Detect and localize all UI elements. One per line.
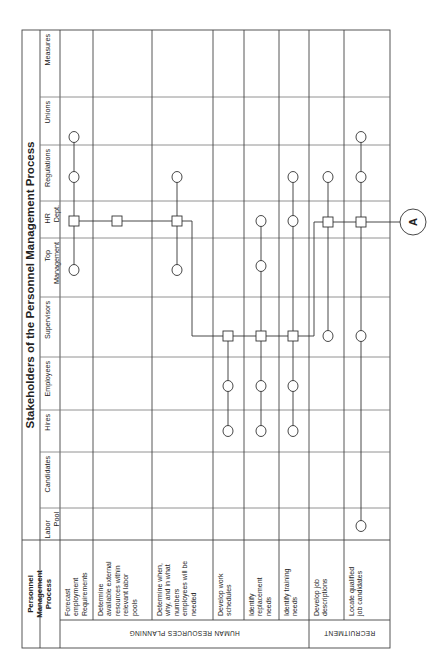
process-label-determine-when: Determine when,why, and in whatnumbersem… [156, 561, 197, 617]
stakeholder-nodes [69, 132, 366, 532]
stakeholder-involved-circle-icon [223, 381, 233, 392]
stakeholder-label-candidates: Candidates [43, 456, 52, 493]
process-header-label: Management [35, 570, 44, 618]
stakeholder-responsible-square-icon [323, 217, 333, 227]
stakeholder-involved-circle-icon [356, 331, 366, 342]
process-label: Develop work [217, 573, 225, 616]
stakeholder-responsible-square-icon [172, 216, 182, 226]
stakeholder-involved-circle-icon [356, 521, 366, 532]
stakeholder-label-hr-dept: HRDept. [43, 205, 61, 223]
grid-lines [22, 30, 390, 648]
process-label: Identify training [283, 568, 291, 616]
stakeholder-label: Employees [43, 361, 52, 397]
off-page-connector-label: A [407, 218, 419, 226]
stakeholder-involved-circle-icon [288, 381, 298, 392]
stakeholder-label: Unions [43, 101, 52, 124]
category-label-hr-planning: HUMAN RESOURCES PLANNING [129, 630, 240, 637]
stakeholder-involved-circle-icon [288, 426, 298, 437]
process-label: Locate qualified [348, 567, 356, 616]
stakeholder-involved-circle-icon [356, 132, 366, 143]
stakeholder-label-hires: Hires [43, 414, 52, 431]
process-label: relevant labor [122, 573, 129, 616]
process-label-replacement-needs: Identifyreplacementneeds [248, 577, 272, 616]
stakeholder-label: Hires [43, 414, 52, 431]
process-label: why, and in what [164, 564, 172, 617]
process-label: needs [291, 596, 298, 616]
stakeholder-label: Candidates [43, 456, 52, 493]
process-header-label: Process [44, 578, 53, 609]
stakeholder-responsible-square-icon [112, 216, 122, 226]
process-label: Identify [248, 593, 256, 616]
process-label-training-needs: Identify trainingneeds [283, 568, 298, 616]
stakeholder-responsible-square-icon [69, 216, 79, 226]
stakeholder-involved-circle-icon [356, 172, 366, 183]
stakeholder-involved-circle-icon [288, 216, 298, 227]
stakeholder-involved-circle-icon [256, 426, 266, 437]
process-label: employees will be [181, 561, 189, 616]
process-column-header: PersonnelManagementProcess [26, 570, 53, 618]
stakeholder-label-employees: Employees [43, 361, 52, 397]
diagram-page: Stakeholders of the Personnel Management… [0, 0, 430, 671]
process-label: Determine [97, 584, 104, 616]
stakeholder-label: Pool [52, 512, 61, 527]
stakeholder-responsible-square-icon [256, 331, 266, 341]
stakeholder-label-unions: Unions [43, 101, 52, 124]
stakeholder-responsible-square-icon [356, 217, 366, 227]
stakeholder-involved-circle-icon [256, 381, 266, 392]
process-header-label: Personnel [26, 575, 35, 613]
process-label-determine-external: Determineavailable externalresources wit… [97, 561, 139, 616]
stakeholder-involved-circle-icon [256, 261, 266, 272]
process-label-work-schedules: Develop workschedules [217, 573, 232, 616]
process-label: needed [190, 593, 197, 616]
category-labels: HUMAN RESOURCES PLANNINGRECRUITMENT [129, 630, 375, 637]
process-label: schedules [225, 584, 232, 616]
stakeholder-label: Supervisors [43, 301, 52, 339]
process-label: numbers [173, 588, 180, 616]
stakeholder-involved-circle-icon [69, 132, 79, 143]
stakeholder-involved-circle-icon [288, 172, 298, 183]
stakeholder-label: Dept. [52, 205, 61, 222]
outer-border [22, 30, 390, 648]
stakeholder-label: Measures [43, 34, 52, 66]
process-label: replacement [256, 577, 264, 616]
process-label: job candidates [356, 570, 364, 617]
process-label-forecast: ForecastemploymentRequirements [64, 572, 89, 616]
stakeholder-label-regulations: Regulations [43, 149, 52, 187]
category-label-recruitment: RECRUITMENT [324, 630, 375, 637]
stakeholder-involved-circle-icon [323, 331, 333, 342]
stakeholder-matrix-diagram: Stakeholders of the Personnel Management… [0, 0, 430, 671]
process-label: pools [131, 599, 139, 616]
stakeholder-involved-circle-icon [323, 172, 333, 183]
process-label: resources within [114, 565, 121, 616]
stakeholder-involved-circle-icon [69, 265, 79, 276]
process-label-job-descriptions: Develop jobdescriptions [313, 578, 329, 616]
process-label: employment [72, 578, 80, 616]
stakeholder-label-measures: Measures [43, 34, 52, 66]
process-label: Determine when, [156, 563, 163, 616]
stakeholder-label: Management [52, 242, 61, 284]
stakeholder-responsible-square-icon [288, 331, 298, 341]
stakeholder-label-top-management: TopManagement [43, 242, 61, 284]
stakeholder-label-labor-pool: LaborPool [43, 512, 61, 539]
stakeholder-involved-circle-icon [172, 172, 182, 183]
process-label: Develop job [313, 579, 321, 616]
process-label: available external [105, 561, 112, 616]
process-label: descriptions [321, 578, 329, 616]
elbow-link [293, 222, 328, 336]
stakeholder-label: Regulations [43, 149, 52, 187]
stakeholder-header: Stakeholders of the Personnel Management… [24, 34, 61, 618]
stakeholder-responsible-square-icon [223, 331, 233, 341]
stakeholder-involved-circle-icon [223, 426, 233, 437]
process-label: Requirements [81, 572, 89, 616]
off-page-connector: A [400, 209, 426, 235]
stakeholder-label-supervisors: Supervisors [43, 301, 52, 339]
stakeholder-involved-circle-icon [172, 265, 182, 276]
stakeholder-involved-circle-icon [256, 216, 266, 227]
process-labels: ForecastemploymentRequirementsDeterminea… [64, 561, 364, 617]
diagram-title: Stakeholders of the Personnel Management… [24, 142, 36, 429]
process-label: Forecast [64, 589, 71, 616]
stakeholder-involved-circle-icon [69, 172, 79, 183]
connector-lines [74, 137, 404, 526]
process-label-locate-candidates: Locate qualifiedjob candidates [348, 567, 364, 617]
process-label: needs [265, 596, 272, 616]
